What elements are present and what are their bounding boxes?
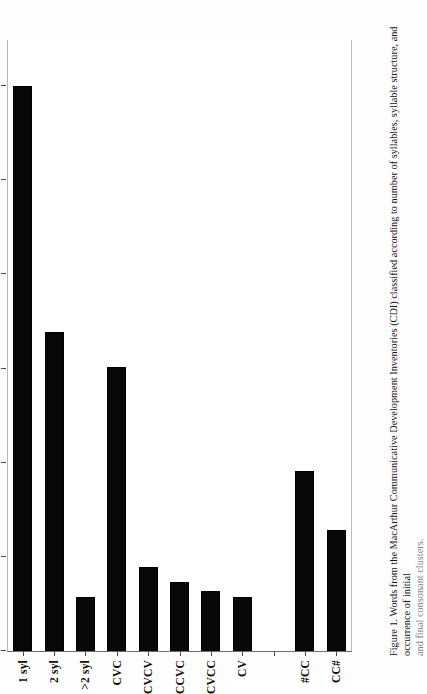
category-tick: [23, 651, 24, 656]
category-label: CVC: [111, 660, 123, 686]
category-label: CC#: [330, 660, 342, 683]
category-label: CVCC: [205, 660, 217, 694]
value-tick: [1, 556, 6, 557]
category-label: #CC: [299, 660, 311, 683]
category-label: 2 syl: [48, 660, 60, 683]
value-tick: [1, 273, 6, 274]
category-tick: [211, 651, 212, 656]
figure-caption-continued: and final consonant clusters.: [414, 16, 427, 656]
category-tick: [305, 651, 306, 656]
value-tick: [1, 85, 6, 86]
value-axis-ticks: 0102030405060: [7, 39, 352, 651]
value-tick: [1, 179, 6, 180]
category-tick: [85, 651, 86, 656]
figure-caption: Figure 1. Words from the MacArthur Commu…: [388, 16, 427, 656]
category-label: CCVC: [174, 660, 186, 694]
category-axis-ticks: 1 syl2 syl>2 sylCVCCVCVCCVCCVCCCV#CCCC#: [7, 631, 352, 651]
value-tick: [1, 650, 6, 651]
category-label: CV: [236, 660, 248, 677]
category-tick: [117, 651, 118, 656]
category-label: CVCV: [142, 660, 154, 694]
category-tick: [242, 651, 243, 656]
category-label: >2 syl: [79, 660, 91, 690]
bar-chart: 0102030405060 1 syl2 syl>2 sylCVCCVCVCCV…: [0, 0, 380, 678]
value-tick: [1, 462, 6, 463]
value-tick: [1, 368, 6, 369]
figure-caption-text: Words from the MacArthur Communicative D…: [388, 26, 412, 656]
figure-number: Figure 1.: [388, 619, 399, 656]
category-label: 1 syl: [17, 660, 29, 683]
category-tick: [274, 651, 275, 656]
category-tick: [180, 651, 181, 656]
category-tick: [54, 651, 55, 656]
category-tick: [336, 651, 337, 656]
category-tick: [148, 651, 149, 656]
